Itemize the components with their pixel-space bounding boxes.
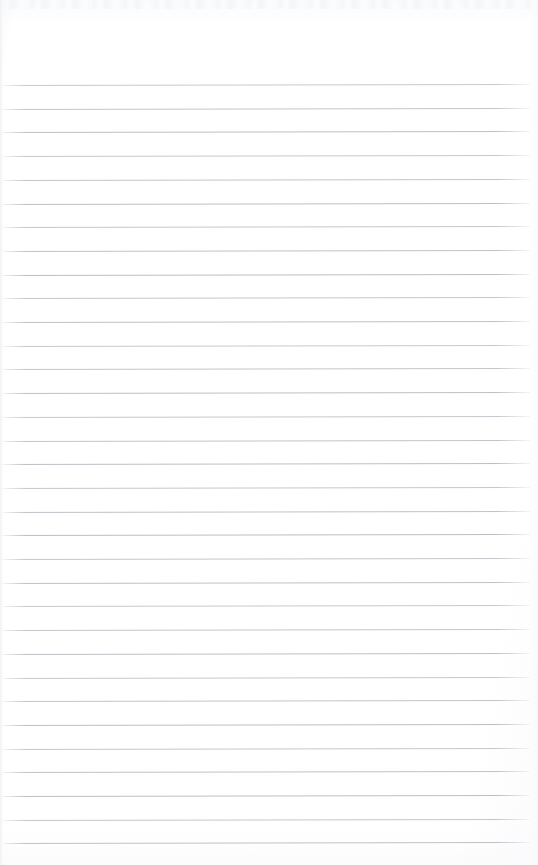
- ruled-line: [0, 202, 530, 204]
- ruled-line: [0, 84, 530, 86]
- ruled-line: [0, 345, 530, 347]
- ruled-line: [0, 131, 530, 133]
- ruled-line: [0, 487, 530, 489]
- ruled-line: [0, 392, 530, 394]
- ruled-line: [0, 297, 530, 299]
- ruled-line: [0, 819, 530, 821]
- ruled-line: [0, 179, 530, 181]
- ruled-line: [0, 368, 530, 370]
- ruled-line: [0, 510, 530, 512]
- ruled-line: [0, 605, 530, 607]
- ruled-line: [0, 250, 530, 252]
- ruled-line: [0, 534, 530, 536]
- ruled-line: [0, 321, 530, 323]
- ruled-line: [0, 629, 530, 631]
- ruled-line: [0, 724, 530, 726]
- ruled-lines-area: [0, 0, 538, 865]
- ruled-line: [0, 463, 530, 465]
- ruled-line: [0, 771, 530, 773]
- ruled-line: [0, 700, 530, 702]
- ruled-line: [0, 582, 530, 584]
- ruled-line: [0, 439, 530, 441]
- ruled-line: [0, 416, 530, 418]
- scanned-page: [0, 0, 538, 865]
- ruled-line: [0, 842, 530, 844]
- ruled-line: [0, 155, 530, 157]
- ruled-line: [0, 676, 530, 678]
- ruled-line: [0, 747, 530, 749]
- ruled-line: [0, 558, 530, 560]
- ruled-line: [0, 273, 530, 275]
- ruled-line: [0, 226, 530, 228]
- ruled-line: [0, 653, 530, 655]
- ruled-line: [0, 795, 530, 797]
- ruled-line: [0, 108, 530, 110]
